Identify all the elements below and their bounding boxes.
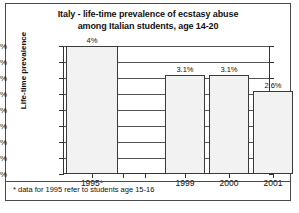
y-axis-tick-label: 0.0% bbox=[0, 170, 7, 179]
plot-area: 0.0%0.5%1.0%1.5%2.0%2.5%3.0%3.5%4.0%4%3.… bbox=[63, 46, 270, 174]
x-axis-tick-label: 1999 bbox=[176, 178, 195, 188]
chart-title: Italy - life-time prevalence of ecstasy … bbox=[6, 9, 290, 32]
bar-2000[interactable] bbox=[209, 75, 249, 174]
y-axis-tick-label: 2.0% bbox=[0, 106, 7, 115]
y-axis-tick-label: 3.5% bbox=[0, 58, 7, 67]
plot-inner: 0.0%0.5%1.0%1.5%2.0%2.5%3.0%3.5%4.0%4%3.… bbox=[63, 46, 270, 174]
bar-value-label: 3.1% bbox=[209, 65, 249, 74]
chart-footnote: * data for 1995 refer to students age 15… bbox=[13, 185, 154, 194]
chart-frame: Italy - life-time prevalence of ecstasy … bbox=[5, 3, 291, 201]
y-axis-tick-label: 2.5% bbox=[0, 90, 7, 99]
bar-value-label: 4% bbox=[66, 36, 118, 45]
axis-line-left bbox=[63, 46, 64, 174]
x-axis-tick bbox=[123, 174, 124, 178]
bar-1999[interactable] bbox=[165, 75, 205, 174]
y-axis-tick-label: 1.0% bbox=[0, 138, 7, 147]
x-axis-tick-label: 2001 bbox=[264, 178, 283, 188]
y-axis-tick-label: 0.5% bbox=[0, 154, 7, 163]
x-axis-tick bbox=[145, 174, 146, 178]
bar-1995[interactable] bbox=[66, 46, 118, 174]
bar-2001[interactable] bbox=[253, 91, 293, 174]
footnote-divider bbox=[6, 181, 290, 182]
bar-value-label: 3.1% bbox=[165, 65, 205, 74]
x-axis-tick-label: 2000 bbox=[220, 178, 239, 188]
chart-title-line-2: among Italian students, age 14-20 bbox=[6, 21, 290, 33]
chart-title-line-1: Italy - life-time prevalence of ecstasy … bbox=[6, 9, 290, 21]
y-axis-tick bbox=[59, 174, 64, 175]
bar-value-label: 2.6% bbox=[253, 81, 293, 90]
y-axis-title: Life-time prevalence bbox=[19, 16, 28, 126]
y-axis-tick-label: 1.5% bbox=[0, 122, 7, 131]
y-axis-tick-label: 4.0% bbox=[0, 42, 7, 51]
y-axis-tick-label: 3.0% bbox=[0, 74, 7, 83]
